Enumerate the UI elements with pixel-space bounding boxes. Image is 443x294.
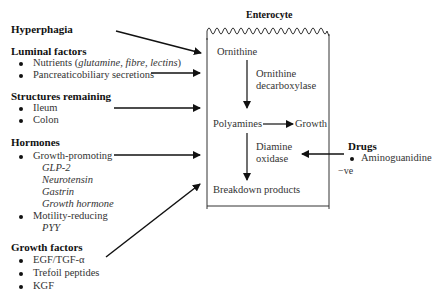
ornithine-decarboxylase-label-2: decarboxylase: [256, 80, 316, 92]
polyamines-label: Polyamines: [213, 118, 262, 130]
bullet: [19, 74, 23, 78]
hyperphagia-heading: Hyperphagia: [11, 23, 73, 35]
aminoguanidine-item: Aminoguanidine: [361, 152, 432, 164]
negative-effect-label: −ve: [338, 165, 353, 177]
hormones-heading: Hormones: [11, 136, 60, 148]
bullet: [19, 285, 23, 289]
glp2-item: GLP-2: [42, 162, 71, 174]
nutrients-item: Nutrients (glutamine, fibre, lectins): [33, 57, 181, 69]
colon-item: Colon: [33, 114, 59, 126]
kgf-item: KGF: [33, 280, 54, 292]
growth-factors-heading: Growth factors: [11, 241, 83, 253]
breakdown-products-label: Breakdown products: [213, 184, 300, 196]
growth-promoting-item: Growth-promoting: [33, 150, 112, 162]
bullet: [19, 119, 23, 123]
trefoil-item: Trefoil peptides: [33, 267, 99, 279]
ileum-item: Ileum: [33, 102, 58, 114]
bullet: [19, 259, 23, 263]
ornithine-decarboxylase-label-1: Ornithine: [256, 68, 296, 80]
bullet: [350, 157, 354, 161]
pancreaticobiliary-item: Pancreaticobiliary secretions: [33, 69, 154, 81]
ornithine-label: Ornithine: [217, 46, 257, 58]
bullet: [19, 155, 23, 159]
luminal-factors-heading: Luminal factors: [11, 45, 86, 57]
growth-hormone-item: Growth hormone: [42, 198, 114, 210]
enterocyte-title: Enterocyte: [246, 9, 292, 21]
structures-heading: Structures remaining: [11, 90, 111, 102]
bullet: [19, 215, 23, 219]
motility-reducing-item: Motility-reducing: [33, 210, 108, 222]
growth-label: Growth: [295, 118, 327, 130]
drugs-heading: Drugs: [348, 140, 377, 152]
diamine-oxidase-label-2: oxidase: [256, 153, 288, 165]
neurotensin-item: Neurotensin: [42, 174, 93, 186]
microvilli-border: [207, 28, 329, 40]
egf-item: EGF/TGF-α: [33, 254, 85, 266]
bullet: [19, 272, 23, 276]
diamine-oxidase-label-1: Diamine: [256, 141, 292, 153]
gastrin-item: Gastrin: [42, 186, 74, 198]
pyy-item: PYY: [42, 222, 60, 234]
bullet: [19, 62, 23, 66]
bullet: [19, 107, 23, 111]
